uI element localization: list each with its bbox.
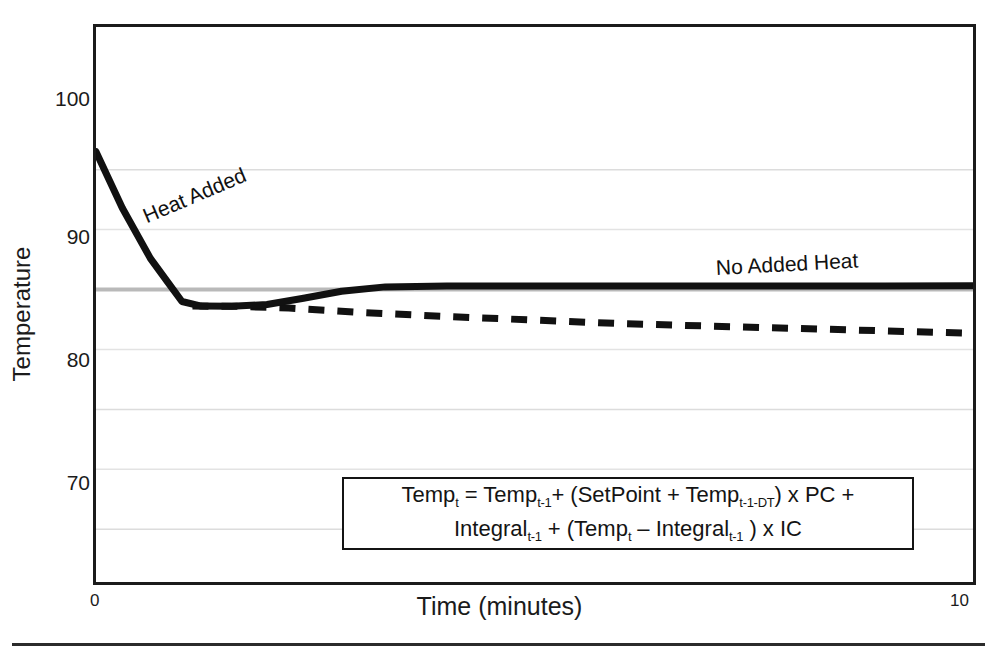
formula-l1-s3: t-1-DT xyxy=(739,495,774,510)
formula-l1-p3: + (SetPoint + Temp xyxy=(551,482,739,507)
formula-line-1: Tempt = Tempt-1+ (SetPoint + Tempt-1-DT)… xyxy=(402,479,855,513)
y-axis-title: Temperature xyxy=(8,234,36,394)
x-axis-title: Time (minutes) xyxy=(0,592,999,621)
formula-l1-p1: Temp xyxy=(402,482,456,507)
chart-page: 100 90 80 70 Temperature Heat Added xyxy=(0,0,999,652)
formula-l2-p1: Integral xyxy=(454,516,527,541)
page-divider xyxy=(12,643,985,646)
formula-l2-s1: t-1 xyxy=(527,529,541,544)
formula-line-2: Integralt-1 + (Tempt – Integralt-1 ) x I… xyxy=(454,513,802,547)
formula-box: Tempt = Tempt-1+ (SetPoint + Tempt-1-DT)… xyxy=(342,477,914,550)
formula-l2-s3: t-1 xyxy=(729,529,743,544)
y-tick-70: 70 xyxy=(30,472,90,493)
y-tick-90: 90 xyxy=(30,226,90,247)
formula-l1-p4: ) x PC + xyxy=(774,482,854,507)
formula-l1-p2: = Temp xyxy=(459,482,537,507)
y-tick-80: 80 xyxy=(30,349,90,370)
formula-l2-s2: t xyxy=(628,529,631,544)
formula-l2-p4: ) x IC xyxy=(743,516,802,541)
formula-l1-s2: t-1 xyxy=(537,495,551,510)
formula-l2-p3: – Integral xyxy=(631,516,729,541)
formula-l2-p2: + (Temp xyxy=(542,516,628,541)
formula-l1-s1: t xyxy=(455,495,458,510)
y-tick-100: 100 xyxy=(30,88,90,109)
